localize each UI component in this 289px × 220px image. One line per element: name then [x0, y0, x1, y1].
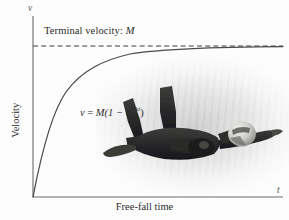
y-axis-title: Velocity — [11, 84, 22, 156]
equation-exponent: −kt — [130, 105, 140, 113]
equation-label: v = M(1 − e−kt) — [80, 106, 144, 118]
terminal-velocity-label: Terminal velocity: M — [44, 26, 135, 37]
terminal-velocity-symbol: M — [126, 25, 135, 36]
x-axis-tip-label: t — [277, 186, 280, 196]
free-fall-velocity-figure: Terminal velocity: M v = M(1 − e−kt) Fre… — [0, 0, 289, 220]
x-axis-title: Free-fall time — [0, 202, 289, 213]
y-axis-tip-label: v — [28, 4, 32, 14]
equation-rhs-close: ) — [140, 107, 144, 118]
equation-rhs-open: M(1 − e — [96, 107, 131, 118]
equation-equals: = — [85, 107, 96, 118]
terminal-velocity-text: Terminal velocity: — [44, 25, 126, 36]
velocity-curve — [33, 47, 283, 197]
